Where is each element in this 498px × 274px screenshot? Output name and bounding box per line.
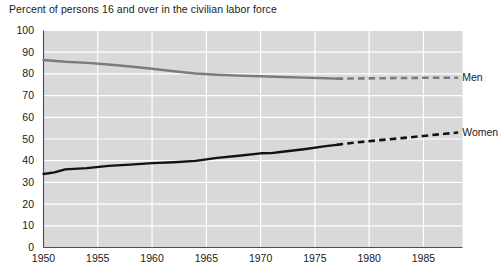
x-tick-label-1970: 1970: [241, 253, 281, 263]
y-tick-label-80: 80: [4, 68, 34, 78]
y-tick-label-50: 50: [4, 134, 34, 144]
x-tick-label-1980: 1980: [349, 253, 389, 263]
y-tick-label-60: 60: [4, 112, 34, 122]
y-tick-label-20: 20: [4, 199, 34, 209]
y-tick-label-10: 10: [4, 220, 34, 230]
y-tick-label-40: 40: [4, 155, 34, 165]
x-tick-label-1975: 1975: [295, 253, 335, 263]
x-tick-label-1955: 1955: [78, 253, 118, 263]
y-tick-label-0: 0: [4, 242, 34, 252]
y-tick-label-70: 70: [4, 90, 34, 100]
series-label-men: Men: [462, 72, 482, 82]
series-label-women: Women: [462, 127, 498, 137]
x-tick-label-1985: 1985: [403, 253, 443, 263]
y-tick-label-30: 30: [4, 177, 34, 187]
x-tick-label-1965: 1965: [186, 253, 226, 263]
y-tick-label-90: 90: [4, 47, 34, 57]
x-tick-label-1960: 1960: [132, 253, 172, 263]
y-tick-label-100: 100: [4, 25, 34, 35]
x-tick-label-1950: 1950: [24, 253, 64, 263]
